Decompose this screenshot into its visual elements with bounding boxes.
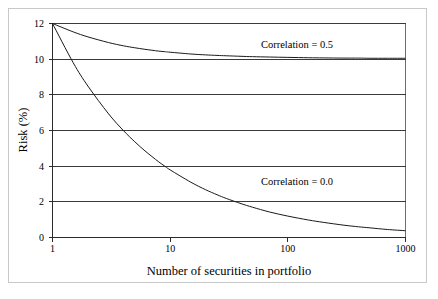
- annotation-correlation-0-5: Correlation = 0.5: [261, 39, 333, 50]
- x-axis-tick-labels: 1 10 100 1000: [50, 243, 416, 254]
- ytick-label-4: 4: [39, 161, 44, 172]
- ytick-label-10: 10: [34, 54, 44, 65]
- ytick-label-0: 0: [39, 232, 44, 243]
- y-axis-title: Risk (%): [16, 108, 30, 153]
- y-axis-ticks: [49, 24, 53, 238]
- xtick-label-10: 10: [165, 243, 175, 254]
- ytick-label-12: 12: [34, 18, 44, 29]
- risk-diversification-chart: 12 10 8 6 4 2 0 1 10 100 1000 Corre: [0, 0, 438, 299]
- x-axis-title: Number of securities in portfolio: [147, 264, 312, 278]
- xtick-label-100: 100: [280, 243, 295, 254]
- xtick-label-1000: 1000: [396, 243, 416, 254]
- ytick-label-8: 8: [39, 89, 44, 100]
- ytick-label-6: 6: [39, 125, 44, 136]
- y-axis-tick-labels: 12 10 8 6 4 2 0: [34, 18, 44, 243]
- xtick-label-1: 1: [50, 243, 55, 254]
- annotation-correlation-0-0: Correlation = 0.0: [261, 176, 333, 187]
- ytick-label-2: 2: [39, 196, 44, 207]
- x-axis-ticks: [53, 238, 406, 242]
- figure-container: 12 10 8 6 4 2 0 1 10 100 1000 Corre: [0, 0, 438, 299]
